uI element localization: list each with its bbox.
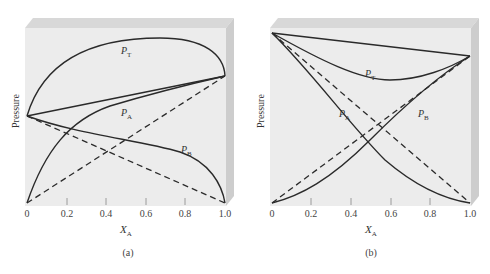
- panel-b-top-bevel: [270, 18, 479, 28]
- panel-a-y-axis-label: Pressure: [10, 94, 21, 128]
- svg-text:0: 0: [270, 208, 275, 219]
- svg-text:0.6: 0.6: [385, 208, 398, 219]
- panel-a-x-axis-label: XA: [119, 223, 132, 238]
- panel-b: PT PA PB Pressure 0 0.2 0.4 0.6 0.8 1.0 …: [255, 18, 479, 259]
- panel-a-caption: (a): [122, 247, 133, 259]
- panel-b-caption: (b): [365, 247, 377, 259]
- svg-text:0: 0: [25, 208, 30, 219]
- svg-text:0.2: 0.2: [61, 208, 74, 219]
- svg-text:0.8: 0.8: [179, 208, 192, 219]
- panel-b-x-axis-label: XA: [364, 223, 377, 238]
- panel-b-face: [270, 28, 471, 206]
- panel-a-side-bevel: [226, 18, 234, 206]
- svg-text:0.8: 0.8: [424, 208, 437, 219]
- svg-text:0.2: 0.2: [305, 208, 318, 219]
- svg-text:0.4: 0.4: [100, 208, 113, 219]
- svg-text:1.0: 1.0: [219, 208, 232, 219]
- panel-a-top-bevel: [25, 18, 234, 28]
- panel-a: PT PA PB Pressure 0 0.2 0.4 0.6 0.8 1.0 …: [10, 18, 234, 259]
- figure: PT PA PB Pressure 0 0.2 0.4 0.6 0.8 1.0 …: [0, 0, 490, 274]
- panel-a-x-tick-labels: 0 0.2 0.4 0.6 0.8 1.0: [25, 208, 232, 219]
- svg-text:1.0: 1.0: [464, 208, 477, 219]
- svg-text:0.6: 0.6: [140, 208, 153, 219]
- panel-b-side-bevel: [471, 18, 479, 206]
- panel-b-x-tick-labels: 0 0.2 0.4 0.6 0.8 1.0: [270, 208, 477, 219]
- svg-text:0.4: 0.4: [345, 208, 358, 219]
- panel-b-y-axis-label: Pressure: [255, 94, 266, 128]
